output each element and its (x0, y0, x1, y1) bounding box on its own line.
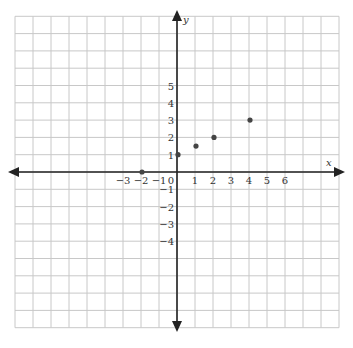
y-tick-label: −1 (159, 184, 174, 195)
x-tick-label: −2 (134, 175, 149, 186)
data-point (175, 152, 180, 157)
x-axis-left-arrow-icon (8, 167, 19, 177)
x-tick-label: 2 (210, 175, 216, 186)
y-axis-up-arrow-icon (172, 10, 182, 21)
x-tick-label: 1 (192, 175, 198, 186)
data-points (139, 118, 252, 175)
x-tick-label: −3 (116, 175, 131, 186)
x-tick-label: 5 (264, 175, 270, 186)
y-tick-label: 5 (168, 81, 174, 92)
tick-labels: −3−2−1012345654321−1−2−3−4 (116, 81, 289, 248)
data-point (193, 143, 198, 148)
y-tick-label: 2 (168, 132, 174, 143)
y-axis-down-arrow-icon (172, 321, 182, 332)
y-tick-label: −2 (159, 202, 174, 213)
coordinate-plane: x y −3−2−1012345654321−1−2−3−4 (0, 0, 353, 348)
y-axis-label: y (182, 14, 189, 25)
axes: x y (8, 10, 345, 332)
x-axis-label: x (326, 157, 332, 168)
x-tick-label: 4 (246, 175, 252, 186)
data-point (139, 169, 144, 174)
data-point (211, 135, 216, 140)
x-tick-label: 6 (282, 175, 288, 186)
y-tick-label: 4 (168, 98, 174, 109)
x-tick-label: 3 (228, 175, 234, 186)
y-tick-label: 1 (168, 150, 174, 161)
y-tick-label: −4 (159, 236, 174, 247)
data-point (247, 118, 252, 123)
y-tick-label: −3 (159, 219, 174, 230)
y-tick-label: 3 (168, 115, 174, 126)
